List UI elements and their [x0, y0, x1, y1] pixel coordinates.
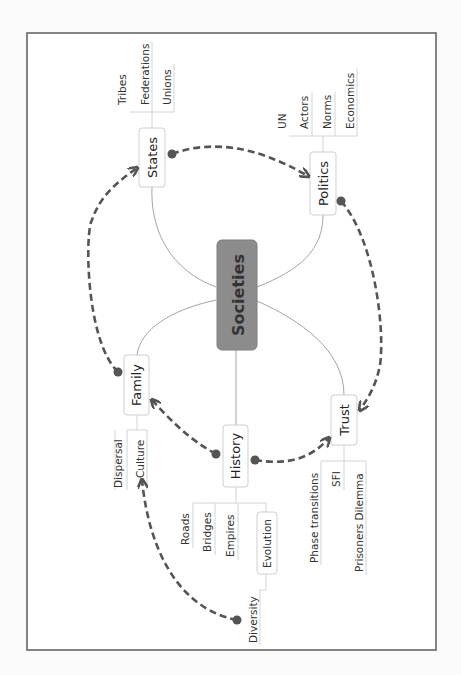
subtopic-un[interactable]: UN	[276, 113, 288, 129]
subtopic-diversity[interactable]: Diversity	[247, 596, 259, 643]
mind-map-canvas: Societies States Politics Family History…	[0, 0, 461, 675]
relationship-start-dot	[337, 197, 346, 206]
relationship-start-dot	[212, 450, 221, 459]
subtopic-tribes[interactable]: Tribes	[116, 74, 128, 106]
topic-politics[interactable]: Politics	[310, 152, 336, 215]
topic-family[interactable]: Family	[124, 355, 149, 415]
topic-states[interactable]: States	[139, 128, 165, 187]
subtopic-phase-transitions[interactable]: Phase transitions	[308, 473, 320, 563]
root-node[interactable]: Societies	[217, 240, 257, 350]
subtopic-culture[interactable]: Culture	[134, 440, 146, 478]
subtopic-unions[interactable]: Unions	[161, 69, 173, 105]
topic-label: Family	[129, 364, 144, 406]
relationship-start-dot	[168, 150, 177, 159]
relationship-start-dot	[251, 456, 260, 465]
topic-label: Politics	[316, 161, 331, 206]
subtopic-bridges[interactable]: Bridges	[201, 512, 213, 552]
subtopic-federations[interactable]: Federations	[139, 44, 151, 105]
topic-label: History	[228, 433, 243, 480]
subtopic-evolution[interactable]: Evolution	[261, 519, 273, 568]
subtopic-prisoners-dilemma[interactable]: Prisoners Dilemma	[353, 473, 365, 572]
subtopic-dispersal[interactable]: Dispersal	[112, 439, 124, 488]
subtopic-sfi[interactable]: SFI	[330, 471, 342, 487]
topic-label: Trust	[337, 404, 352, 436]
subtopic-empires[interactable]: Empires	[224, 515, 236, 557]
subtopic-roads[interactable]: Roads	[179, 513, 191, 545]
subtopic-economics[interactable]: Economics	[344, 73, 356, 129]
subtopic-actors[interactable]: Actors	[298, 96, 310, 129]
root-label: Societies	[229, 254, 248, 336]
relationship-start-dot	[233, 616, 242, 625]
topic-trust[interactable]: Trust	[331, 395, 357, 445]
relationship-start-dot	[114, 368, 123, 377]
subtopic-norms[interactable]: Norms	[321, 95, 333, 129]
topic-history[interactable]: History	[223, 425, 248, 487]
topic-label: States	[145, 137, 160, 178]
